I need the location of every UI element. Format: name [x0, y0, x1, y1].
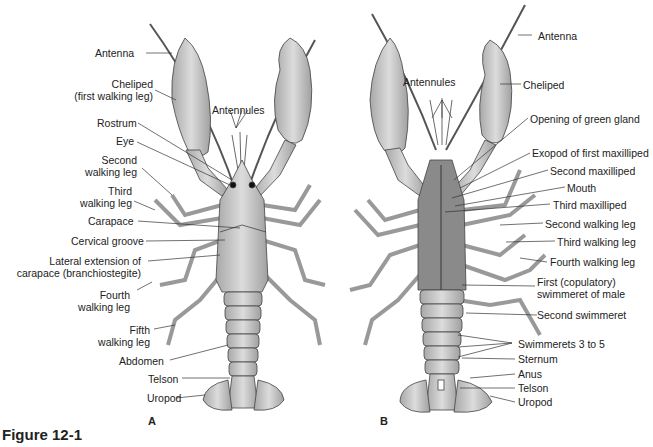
label-telson-a: Telson [148, 373, 178, 385]
label-third-walking-leg-a: Third walking leg [80, 185, 132, 209]
label-second-walking-leg-b: Second walking leg [545, 218, 635, 230]
label-lateral-extension: Lateral extension of carapace (branchios… [17, 255, 141, 279]
label-first-swimmeret: First (copulatory) swimmeret of male [537, 276, 625, 300]
label-green-gland: Opening of green gland [530, 113, 640, 125]
panel-label-a: A [148, 415, 156, 427]
label-fifth-walking-leg: Fifth walking leg [98, 324, 150, 348]
label-cheliped-b: Cheliped [523, 79, 564, 91]
label-second-maxilliped: Second maxilliped [550, 165, 635, 177]
label-sternum: Sternum [518, 353, 558, 365]
label-antenna-b: Antenna [538, 30, 577, 42]
label-abdomen: Abdomen [119, 355, 164, 367]
label-cervical-groove: Cervical groove [71, 235, 144, 247]
label-third-walking-leg-b: Third walking leg [557, 236, 636, 248]
label-mouth: Mouth [567, 182, 596, 194]
label-antennules-a: Antennules [212, 104, 265, 116]
panel-label-b: B [380, 415, 388, 427]
label-carapace: Carapace [88, 215, 134, 227]
label-fourth-walking-leg-a: Fourth walking leg [78, 289, 130, 313]
label-second-swimmeret: Second swimmeret [537, 309, 626, 321]
label-swimmerets-3-5: Swimmerets 3 to 5 [518, 338, 605, 350]
label-uropod-a: Uropod [147, 392, 181, 404]
label-exopod-first-maxilliped: Exopod of first maxilliped [532, 147, 649, 159]
label-fourth-walking-leg-b: Fourth walking leg [550, 256, 635, 268]
label-antennules-b: Antennules [403, 76, 456, 88]
label-eye: Eye [116, 135, 134, 147]
label-uropod-b: Uropod [518, 396, 552, 408]
label-antenna-a: Antenna [95, 47, 134, 59]
label-rostrum: Rostrum [97, 117, 137, 129]
crayfish-dorsal [150, 24, 325, 410]
label-third-maxilliped: Third maxilliped [553, 199, 627, 211]
label-anus: Anus [518, 368, 542, 380]
label-telson-b: Telson [518, 382, 548, 394]
figure-caption: Figure 12-1 [2, 426, 82, 443]
label-cheliped-a: Cheliped (first walking leg) [74, 78, 153, 102]
crayfish-ventral [350, 5, 545, 412]
label-second-walking-leg-a: Second walking leg [85, 154, 137, 178]
